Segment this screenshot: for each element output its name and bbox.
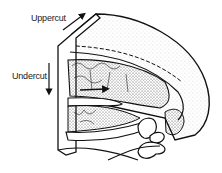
diagram-drawing (0, 0, 222, 173)
